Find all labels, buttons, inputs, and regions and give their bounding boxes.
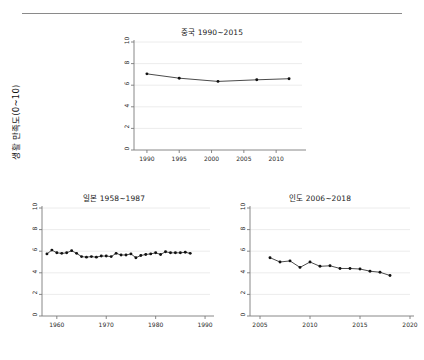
china-chart-svg xyxy=(134,42,302,150)
figure-y-axis-label: 생활 만족도(0~10) xyxy=(9,67,23,177)
y-tick-label: 10 xyxy=(123,34,130,48)
data-point xyxy=(80,255,83,258)
data-point xyxy=(169,251,172,254)
data-point xyxy=(144,253,147,256)
data-point xyxy=(189,252,192,255)
data-point xyxy=(110,255,113,258)
data-point xyxy=(100,255,103,258)
panel-india: 인도 2006~2018 02468102005201020152020 xyxy=(222,192,418,352)
data-point xyxy=(145,72,148,75)
y-tick-label: 0 xyxy=(123,142,130,156)
y-tick-label: 2 xyxy=(123,120,130,134)
data-point xyxy=(95,256,98,259)
y-tick-label: 10 xyxy=(31,200,38,214)
data-point xyxy=(184,251,187,254)
data-point xyxy=(379,271,382,274)
data-point xyxy=(319,265,322,268)
data-point xyxy=(359,268,362,271)
x-tick-label: 1980 xyxy=(144,321,168,328)
data-point xyxy=(70,249,73,252)
data-point xyxy=(329,264,332,267)
data-point xyxy=(50,249,53,252)
data-point xyxy=(289,259,292,262)
data-point xyxy=(164,250,167,253)
x-tick-label: 1960 xyxy=(45,321,69,328)
x-tick-label: 2005 xyxy=(232,155,256,162)
data-point xyxy=(178,77,181,80)
data-point xyxy=(85,256,88,259)
data-point xyxy=(45,252,48,255)
y-tick-label: 6 xyxy=(239,243,246,257)
y-tick-label: 2 xyxy=(239,286,246,300)
data-point xyxy=(75,252,78,255)
data-point xyxy=(179,251,182,254)
panel-japan: 일본 1958~1987 02468101960197019801990 xyxy=(14,192,214,352)
y-tick-label: 2 xyxy=(31,286,38,300)
y-tick-label: 4 xyxy=(31,264,38,278)
data-point xyxy=(105,255,108,258)
data-point xyxy=(288,77,291,80)
data-point xyxy=(115,252,118,255)
y-tick-label: 4 xyxy=(239,264,246,278)
india-chart-svg xyxy=(250,208,410,316)
data-point xyxy=(269,256,272,259)
x-tick-label: 1970 xyxy=(94,321,118,328)
x-tick-label: 2005 xyxy=(248,321,272,328)
data-point xyxy=(120,254,123,257)
data-point xyxy=(299,266,302,269)
x-tick-label: 2015 xyxy=(348,321,372,328)
panel-japan-title: 일본 1958~1987 xyxy=(14,192,214,203)
data-point xyxy=(65,251,68,254)
panel-japan-plot-area: 02468101960197019801990 xyxy=(42,208,210,316)
x-tick-label: 2000 xyxy=(200,155,224,162)
y-tick-label: 10 xyxy=(239,200,246,214)
data-point xyxy=(349,267,352,270)
data-point xyxy=(389,274,392,277)
data-point xyxy=(139,254,142,257)
japan-chart-svg xyxy=(42,208,210,316)
x-tick-label: 1990 xyxy=(193,321,217,328)
x-tick-label: 2010 xyxy=(264,155,288,162)
top-divider-rule xyxy=(22,13,402,14)
data-point xyxy=(134,256,137,259)
data-point xyxy=(309,261,312,264)
y-tick-label: 8 xyxy=(239,221,246,235)
x-tick-label: 2020 xyxy=(398,321,422,328)
data-point xyxy=(125,254,128,257)
y-tick-label: 0 xyxy=(239,308,246,322)
data-point xyxy=(339,267,342,270)
x-tick-label: 1990 xyxy=(135,155,159,162)
y-tick-label: 8 xyxy=(31,221,38,235)
panel-india-plot-area: 02468102005201020152020 xyxy=(250,208,410,316)
panel-india-title: 인도 2006~2018 xyxy=(222,192,418,203)
data-point xyxy=(369,270,372,273)
y-tick-label: 6 xyxy=(31,243,38,257)
figure-root: 생활 만족도(0~10) 중국 1990~2015 02468101990199… xyxy=(0,0,424,360)
data-point xyxy=(154,251,157,254)
data-point xyxy=(217,80,220,83)
y-tick-label: 0 xyxy=(31,308,38,322)
data-point xyxy=(255,78,258,81)
y-tick-label: 4 xyxy=(123,98,130,112)
x-tick-label: 1995 xyxy=(167,155,191,162)
data-point xyxy=(129,252,132,255)
panel-china: 중국 1990~2015 024681019901995200020052010 xyxy=(112,26,312,176)
data-point xyxy=(90,255,93,258)
panel-china-plot-area: 024681019901995200020052010 xyxy=(134,42,302,150)
data-point xyxy=(159,253,162,256)
y-tick-label: 8 xyxy=(123,55,130,69)
data-point xyxy=(174,251,177,254)
data-point xyxy=(60,252,63,255)
data-point xyxy=(55,251,58,254)
data-point xyxy=(279,261,282,264)
y-tick-label: 6 xyxy=(123,77,130,91)
panel-china-title: 중국 1990~2015 xyxy=(112,26,312,37)
data-point xyxy=(149,252,152,255)
x-tick-label: 2010 xyxy=(298,321,322,328)
